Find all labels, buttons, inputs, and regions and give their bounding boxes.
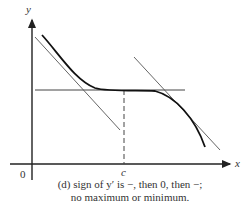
origin-label: 0 (20, 168, 26, 180)
caption-line-1: (d) sign of y′ is −, then 0, then −; (30, 178, 230, 191)
c-label: c (121, 166, 126, 178)
y-axis-label: y (26, 3, 31, 15)
x-axis-label: x (235, 157, 240, 169)
left-tangent-line (35, 37, 120, 130)
caption-line-2: no maximum or minimum. (30, 191, 230, 204)
